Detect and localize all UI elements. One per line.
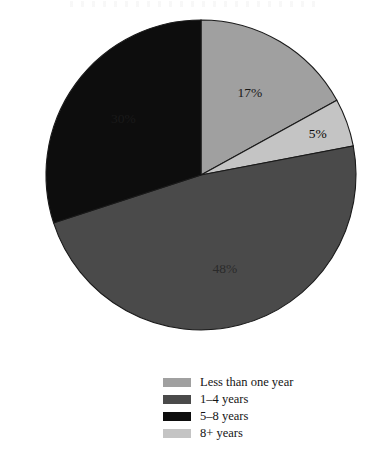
pie-slice-label: 17% xyxy=(238,85,263,100)
pie-chart-figure: 17%5%48%30% Less than one year1–4 years5… xyxy=(0,0,391,462)
pie-plot-area: 17%5%48%30% xyxy=(0,0,391,345)
legend-item: 8+ years xyxy=(163,425,383,442)
legend-item-label: 5–8 years xyxy=(200,410,248,423)
pie-slice-label: 48% xyxy=(213,261,238,276)
legend-item: 1–4 years xyxy=(163,391,383,408)
legend-color-swatch xyxy=(163,412,191,421)
pie-slices-group xyxy=(46,20,356,330)
legend-item-label: 1–4 years xyxy=(200,393,248,406)
legend-color-swatch xyxy=(163,378,191,387)
legend-item: 5–8 years xyxy=(163,408,383,425)
pie-slice-label: 5% xyxy=(309,126,327,141)
legend-item-label: 8+ years xyxy=(200,427,243,440)
legend-color-swatch xyxy=(163,429,191,438)
legend-item-label: Less than one year xyxy=(200,376,293,389)
legend-item: Less than one year xyxy=(163,374,383,391)
pie-svg: 17%5%48%30% xyxy=(0,0,391,345)
pie-slice-label: 30% xyxy=(111,111,136,126)
legend-color-swatch xyxy=(163,395,191,404)
chart-legend: Less than one year1–4 years5–8 years8+ y… xyxy=(163,374,383,442)
